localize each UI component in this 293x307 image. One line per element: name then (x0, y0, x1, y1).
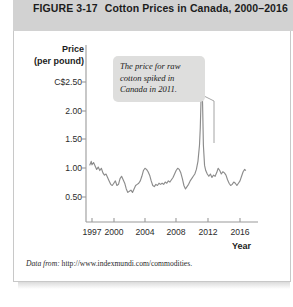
annotation-line-1: The price for raw (120, 61, 180, 71)
chart-plot-area: Price (per pound) Year C$2.50 2.00 1.50 … (0, 0, 293, 307)
annotation-line-2: cotton spiked in (120, 73, 174, 83)
annotation-callout: The price for raw cotton spiked in Canad… (113, 56, 205, 102)
y-axis-ticks (82, 82, 86, 197)
figure-container: FIGURE 3-17 Cotton Prices in Canada, 200… (0, 0, 293, 307)
source-note: Data from: http://www.indexmundi.com/com… (26, 259, 192, 268)
source-url: http://www.indexmundi.com/commodities. (62, 259, 193, 268)
source-label: Data from: (26, 259, 60, 268)
x-axis-ticks (92, 218, 240, 222)
annotation-line-3: Canada in 2011. (120, 84, 177, 94)
annotation-text: The price for raw cotton spiked in Canad… (120, 61, 199, 96)
